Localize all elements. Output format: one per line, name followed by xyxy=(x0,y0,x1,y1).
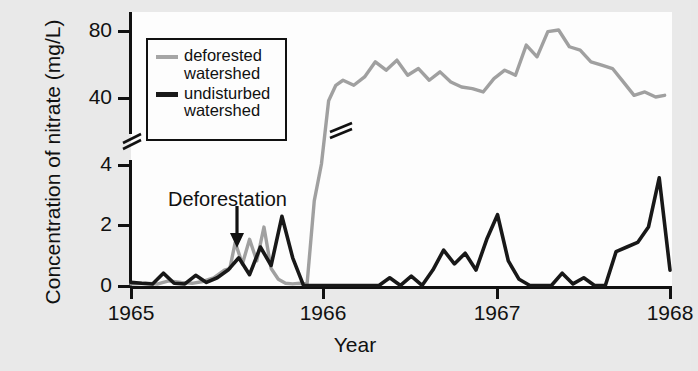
down-arrow-icon xyxy=(226,206,248,248)
legend-item-undisturbed: undisturbed watershed xyxy=(154,85,279,121)
series-break-icon xyxy=(328,118,354,140)
legend-item-deforested: deforested watershed xyxy=(154,47,279,83)
legend-label-undisturbed: undisturbed watershed xyxy=(184,85,270,121)
legend-swatch-deforested-icon xyxy=(156,55,178,59)
legend-swatch-undisturbed-icon xyxy=(156,92,178,97)
legend-label-undisturbed-line1: undisturbed xyxy=(184,84,270,102)
legend-label-undisturbed-line2: watershed xyxy=(184,101,260,119)
legend: deforested watershed undisturbed watersh… xyxy=(146,38,287,141)
legend-label-deforested: deforested watershed xyxy=(184,47,262,83)
legend-label-deforested-line1: deforested xyxy=(184,46,262,64)
legend-label-deforested-line2: watershed xyxy=(184,64,260,82)
